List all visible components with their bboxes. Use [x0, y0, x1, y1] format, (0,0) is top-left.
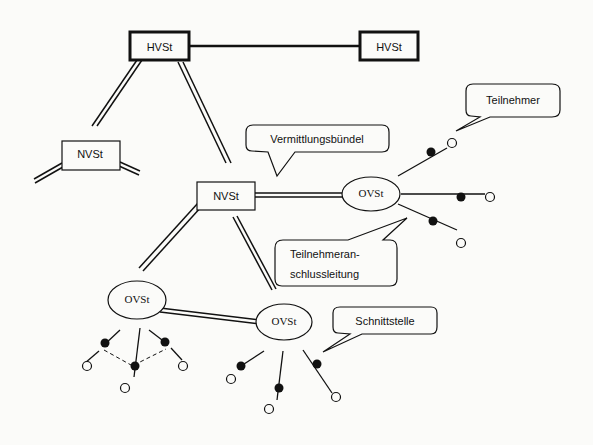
node-label: OVSt	[124, 293, 149, 305]
interface-dot	[161, 338, 170, 347]
subscriber-terminal	[265, 405, 274, 414]
node-label: NVSt	[213, 190, 239, 202]
interface-dot	[131, 362, 140, 371]
subscriber-line	[398, 148, 447, 176]
interface-dot	[237, 362, 246, 371]
callout-label: Teilnehmer	[486, 94, 540, 106]
node-hvst-right: HVSt	[360, 32, 418, 60]
double-line-hvst-nvst-center	[178, 62, 231, 163]
subscriber-terminal	[121, 384, 130, 393]
node-ovst-right: OVSt	[342, 177, 400, 211]
subscriber-terminal	[83, 362, 92, 371]
callout-label-line1: Teilnehmeran-	[290, 248, 360, 260]
interface-dot	[427, 148, 436, 157]
dashed-link	[134, 349, 166, 365]
interface-dot	[101, 339, 110, 348]
node-nvst-left: NVSt	[62, 141, 120, 170]
double-line-nvst-ovst-right	[255, 193, 342, 197]
double-line-hvst-nvst-left	[92, 60, 142, 126]
node-ovst-bottom-center: OVSt	[256, 304, 312, 340]
double-line-nvst-ovst-bottom-center	[233, 216, 276, 290]
callout-teilnehmer: Teilnehmer	[456, 84, 560, 131]
node-label: OVSt	[358, 187, 383, 199]
double-line-nvst-left-out-left	[34, 163, 63, 183]
callout-schnittstelle: Schnittstelle	[323, 307, 437, 352]
subscriber-terminal	[486, 193, 495, 202]
double-line-ovst-bottom-left-center	[160, 308, 260, 324]
callout-label: Vermittlungsbündel	[270, 133, 364, 145]
node-label: HVSt	[147, 41, 173, 53]
subscriber-terminal	[227, 375, 236, 384]
subscriber-line	[303, 350, 332, 393]
node-label: NVSt	[77, 148, 103, 160]
callout-vermittlungsbuendel: Vermittlungsbündel	[246, 125, 389, 176]
telecom-network-diagram: HVSt HVSt NVSt NVSt OVSt OVSt OVSt Teiln…	[0, 0, 593, 445]
subscriber-line	[277, 351, 283, 400]
interface-dot	[275, 384, 284, 393]
node-label: HVSt	[376, 41, 402, 53]
subscriber-line	[171, 348, 182, 360]
subscriber-terminal	[179, 362, 188, 371]
callout-label: Schnittstelle	[355, 315, 414, 327]
dashed-link	[104, 350, 131, 365]
subscriber-line	[398, 204, 457, 230]
node-ovst-bottom-left: OVSt	[108, 281, 166, 319]
diagram-svg: HVSt HVSt NVSt NVSt OVSt OVSt OVSt Teiln…	[0, 0, 593, 445]
subscriber-terminal	[332, 393, 341, 402]
node-nvst-center: NVSt	[197, 182, 255, 210]
subscriber-terminal	[448, 139, 457, 148]
double-line-nvst-left-out-right	[119, 162, 140, 175]
callout-label-line2: schlussleitung	[290, 268, 359, 280]
subscriber-terminal	[457, 239, 466, 248]
interface-dot	[457, 193, 466, 202]
double-line-nvst-ovst-bottom-left	[139, 203, 202, 271]
node-label: OVSt	[271, 315, 296, 327]
interface-dot	[313, 360, 322, 369]
node-hvst-left: HVSt	[130, 32, 189, 60]
interface-dot	[429, 217, 438, 226]
